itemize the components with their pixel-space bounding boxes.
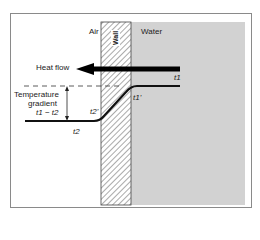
wall-label: Wall bbox=[111, 30, 120, 46]
t1-prime-label: t1' bbox=[133, 93, 141, 102]
t2-prime-label: t2' bbox=[90, 107, 98, 116]
air-label: Air bbox=[89, 27, 99, 36]
t2-label: t2 bbox=[73, 127, 80, 136]
heat-flow-arrowhead-icon bbox=[76, 63, 94, 75]
temperature-gradient-label-line2: gradient bbox=[28, 99, 57, 108]
water-label: Water bbox=[141, 27, 162, 36]
gradient-arrow-up-icon bbox=[65, 86, 69, 91]
water-region bbox=[131, 22, 245, 205]
temperature-gradient-label-line1: Temperature bbox=[14, 90, 59, 99]
heat-flow-label: Heat flow bbox=[36, 63, 69, 72]
t1-label: t1 bbox=[174, 73, 181, 82]
gradient-expression: t1 − t2 bbox=[36, 108, 58, 117]
